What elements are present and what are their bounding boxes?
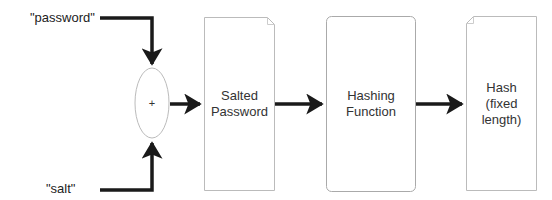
salted-hash-diagram: "password" "salt" + Salted Password Hash…	[0, 0, 552, 200]
password-input-label: "password"	[30, 10, 95, 25]
hash-label: Hash (fixed length)	[466, 80, 537, 128]
password-connector-arrow	[100, 18, 152, 64]
hashing-function-label: Hashing Function	[326, 88, 416, 120]
salted-password-label: Salted Password	[204, 88, 275, 120]
salt-connector-arrow	[100, 143, 152, 190]
plus-symbol: +	[142, 95, 162, 111]
salt-input-label: "salt"	[46, 181, 75, 196]
